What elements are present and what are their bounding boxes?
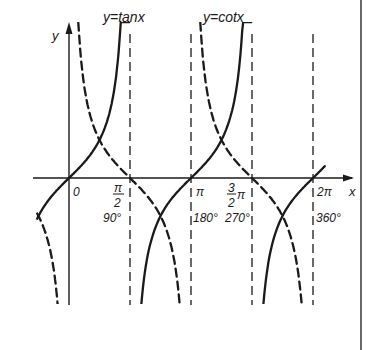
tick-3pi-half-num: 3: [228, 181, 235, 195]
tick-180-deg: 180°: [193, 211, 218, 225]
graph-canvas: y=tanx y=cotx y x 0 π 2 90° π 180° 3 2 π…: [0, 0, 378, 350]
x-axis-arrow-icon: [343, 175, 354, 182]
tick-pi: π 180°: [193, 185, 218, 225]
curve-branch: [37, 214, 59, 327]
tick-3pi-half: 3 2 π 270°: [224, 181, 250, 225]
tick-2pi: 2π 360°: [316, 185, 341, 225]
tan-label: y=tanx: [102, 9, 146, 25]
y-axis-label: y: [51, 28, 60, 43]
tick-3pi-half-sym: π: [237, 188, 246, 202]
asymptotes: [130, 34, 313, 305]
x-axis-label: x: [348, 184, 356, 199]
cot-label: y=cotx: [202, 9, 245, 25]
trig-graph-figure: y=tanx y=cotx y x 0 π 2 90° π 180° 3 2 π…: [0, 0, 378, 350]
tick-360-deg: 360°: [316, 211, 341, 225]
origin-label: 0: [73, 185, 80, 199]
tick-90-deg: 90°: [103, 211, 121, 225]
tick-3pi-half-den: 2: [227, 196, 235, 210]
tick-2pi-label: 2π: [316, 185, 333, 199]
tick-pi-label: π: [196, 185, 205, 199]
tick-pi-half: π 2 90°: [103, 181, 124, 225]
tick-pi-half-den: 2: [113, 196, 121, 210]
tick-270-deg: 270°: [224, 211, 250, 225]
y-axis-arrow-icon: [66, 22, 73, 34]
tick-pi-half-num: π: [114, 181, 123, 195]
